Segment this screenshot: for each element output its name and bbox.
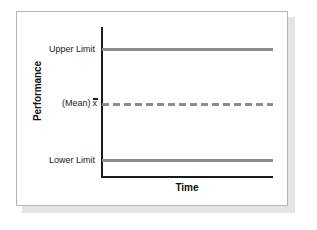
mean-label-text: (Mean)	[62, 98, 91, 108]
mean-label-xbar-symbol: x	[91, 99, 98, 108]
lower-limit-line	[102, 159, 273, 162]
x-axis-line	[101, 176, 273, 178]
y-axis-title: Performance	[33, 43, 43, 139]
upper-limit-label: Upper Limit	[49, 45, 95, 54]
control-chart-figure: Upper Limit (Mean)x Lower Limit Performa…	[16, 11, 288, 206]
mean-line	[102, 103, 273, 106]
x-axis-title: Time	[101, 183, 273, 193]
upper-limit-line	[102, 48, 273, 51]
plot-area: Upper Limit (Mean)x Lower Limit Performa…	[17, 12, 289, 207]
mean-label: (Mean)x	[62, 99, 97, 108]
lower-limit-label: Lower Limit	[49, 156, 95, 165]
